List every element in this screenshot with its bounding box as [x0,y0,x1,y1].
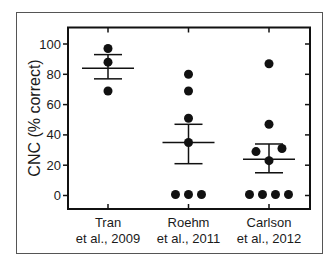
series-group [163,70,215,199]
data-point [184,138,193,147]
y-tick-label: 40 [47,127,61,142]
x-category-label: Roehm [168,215,210,230]
x-category-label: et al., 2012 [237,231,301,246]
data-point [104,44,113,53]
y-tick-label: 80 [47,67,61,82]
data-point-zero [245,190,254,199]
data-point-zero [258,190,267,199]
x-category-label: et al., 2009 [76,231,140,246]
data-point [265,156,274,165]
data-point [184,114,193,123]
y-tick-label: 60 [47,97,61,112]
y-axis-label: CNC (% correct) [26,59,43,176]
data-point-zero [171,190,180,199]
data-series [82,44,295,199]
data-point [265,59,274,68]
y-tick-label: 100 [39,37,61,52]
data-point [252,147,261,156]
data-point [278,144,287,153]
data-point-zero [271,190,280,199]
data-point [184,86,193,95]
series-group [243,59,295,199]
x-category-label: Tran [95,215,121,230]
cnc-scatter-chart: 020406080100 CNC (% correct) Tranet al.,… [0,0,328,264]
y-tick-label: 20 [47,158,61,173]
x-category-label: et al., 2011 [157,231,220,246]
data-point [104,58,113,67]
data-point [104,86,113,95]
x-category-label: Carlson [247,215,292,230]
data-point [265,120,274,129]
data-point-zero [184,190,193,199]
y-tick-label: 0 [54,188,61,203]
data-point-zero [197,190,206,199]
series-group [82,44,134,95]
data-point-zero [284,190,293,199]
data-point [184,70,193,79]
